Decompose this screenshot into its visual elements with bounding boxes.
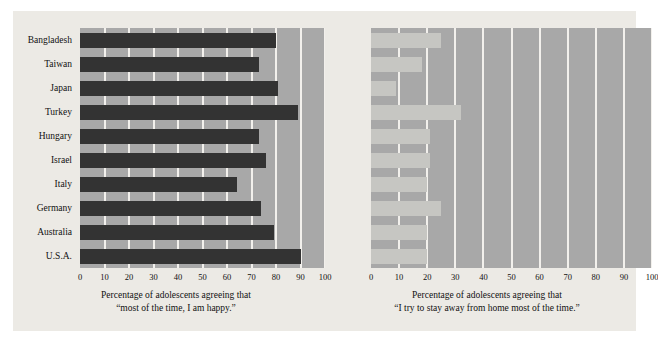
x-tick-label: 0	[78, 272, 82, 282]
category-label-column: BangladeshTaiwanJapanTurkeyHungaryIsrael…	[13, 28, 76, 268]
bar	[80, 81, 278, 96]
gridline-40	[482, 28, 484, 268]
gridline-100	[651, 28, 652, 268]
caption-line-1: Percentage of adolescents agreeing that	[337, 289, 637, 302]
x-tick-label: 50	[507, 272, 516, 282]
category-label: Israel	[51, 155, 72, 166]
bar	[80, 225, 274, 240]
x-tick-label: 10	[100, 272, 109, 282]
bar	[80, 201, 261, 216]
gridline-50	[511, 28, 513, 268]
x-tick-label: 100	[319, 272, 332, 282]
category-label: Hungary	[39, 131, 72, 142]
category-label: Italy	[55, 179, 72, 190]
x-tick-label: 90	[620, 272, 629, 282]
category-label: Taiwan	[44, 59, 72, 70]
x-axis-ticks-happy: 0102030405060708090100	[13, 272, 338, 285]
caption-line-1: Percentage of adolescents agreeing that	[31, 289, 321, 302]
x-tick-label: 70	[247, 272, 256, 282]
bar	[80, 57, 259, 72]
bar	[80, 177, 237, 192]
caption-line-2: “I try to stay away from home most of th…	[337, 302, 637, 315]
chart-away-from-home: 0102030405060708090100 Percentage of ado…	[343, 11, 636, 331]
gridline-80	[275, 28, 277, 268]
plot-area-happy	[80, 28, 325, 268]
x-axis-caption-away-from-home: Percentage of adolescents agreeing that …	[337, 289, 637, 314]
x-tick-label: 80	[272, 272, 281, 282]
gridline-90	[623, 28, 625, 268]
x-tick-label: 80	[592, 272, 601, 282]
category-label: Japan	[50, 83, 72, 94]
bar	[371, 177, 427, 192]
gridline-100	[324, 28, 325, 268]
category-label: U.S.A.	[46, 251, 72, 262]
bar	[371, 105, 461, 120]
bar	[80, 249, 301, 264]
figure-panel: BangladeshTaiwanJapanTurkeyHungaryIsrael…	[13, 11, 636, 331]
bar	[80, 33, 276, 48]
bar	[371, 57, 422, 72]
bar	[371, 153, 430, 168]
gridline-90	[300, 28, 302, 268]
x-tick-label: 50	[198, 272, 207, 282]
x-tick-label: 70	[563, 272, 572, 282]
x-tick-label: 60	[535, 272, 544, 282]
x-tick-label: 100	[646, 272, 658, 282]
x-axis-ticks-away-from-home: 0102030405060708090100	[343, 272, 636, 285]
category-label: Bangladesh	[28, 35, 72, 46]
bar	[80, 105, 298, 120]
chart-happy: BangladeshTaiwanJapanTurkeyHungaryIsrael…	[13, 11, 338, 331]
x-tick-label: 20	[423, 272, 432, 282]
x-tick-label: 10	[395, 272, 404, 282]
category-label: Australia	[37, 227, 72, 238]
bar	[80, 153, 266, 168]
bar	[80, 129, 259, 144]
x-tick-label: 40	[479, 272, 488, 282]
x-axis-caption-happy: Percentage of adolescents agreeing that …	[31, 289, 321, 314]
gridline-60	[539, 28, 541, 268]
plot-area-away-from-home	[371, 28, 652, 268]
bar	[371, 249, 427, 264]
x-tick-label: 60	[223, 272, 232, 282]
gridline-80	[595, 28, 597, 268]
caption-line-2: “most of the time, I am happy.”	[31, 302, 321, 315]
gridline-30	[454, 28, 456, 268]
category-label: Germany	[37, 203, 72, 214]
gridline-70	[567, 28, 569, 268]
bar	[371, 33, 441, 48]
x-tick-label: 20	[125, 272, 134, 282]
x-tick-label: 90	[296, 272, 305, 282]
x-tick-label: 30	[149, 272, 158, 282]
bar	[371, 225, 427, 240]
x-tick-label: 30	[451, 272, 460, 282]
x-tick-label: 0	[369, 272, 373, 282]
bar	[371, 81, 396, 96]
x-tick-label: 40	[174, 272, 183, 282]
bar	[371, 129, 430, 144]
category-label: Turkey	[45, 107, 72, 118]
bar	[371, 201, 441, 216]
